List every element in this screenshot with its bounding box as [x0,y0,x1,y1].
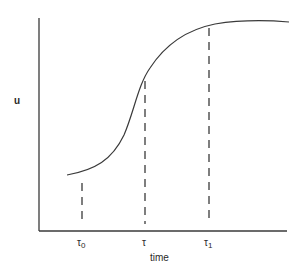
tick-label-tau1: τ1 [204,237,213,250]
sigmoid-curve [67,21,289,175]
y-axis-label: u [14,95,20,106]
sigmoid-chart: τ0 τ τ1 time u [0,0,303,272]
x-axis-label: time [150,252,169,263]
tick-label-tau0: τ0 [77,237,86,250]
tick-label-tau: τ [142,237,146,248]
